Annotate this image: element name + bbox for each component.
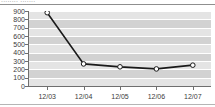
x-axis-tick-labels: 12/0312/0412/0512/0612/07 [0,0,215,107]
x-tick-label: 12/05 [111,93,129,100]
x-tick-mark [156,87,157,90]
x-tick-mark [47,87,48,90]
x-tick-label: 12/06 [148,93,166,100]
x-tick-mark [120,87,121,90]
x-tick-label: 12/03 [38,93,56,100]
x-tick-mark [84,87,85,90]
bottom-divider [0,104,215,105]
line-chart-widget: ........ ....... 90080070060050040030020… [0,0,215,107]
x-tick-label: 12/04 [75,93,93,100]
x-tick-mark [193,87,194,90]
x-tick-label: 12/07 [184,93,202,100]
